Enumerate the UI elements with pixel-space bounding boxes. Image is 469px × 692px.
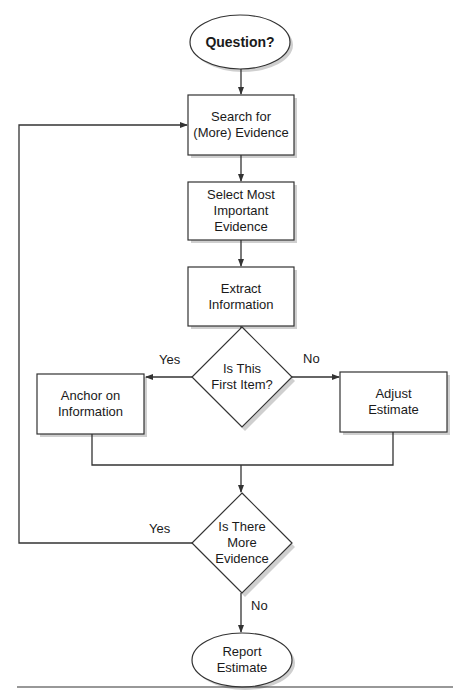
select-line1: Select Most [207, 187, 275, 203]
label-adjust: Adjust Estimate [340, 372, 447, 432]
anchor-line1: Anchor on [61, 388, 120, 404]
select-line3: Evidence [214, 219, 267, 235]
report-line1: Report [222, 644, 261, 660]
edge-label-more-yes: Yes [149, 521, 170, 537]
first-item-line1: Is This [223, 361, 261, 377]
start-text: Question? [205, 34, 274, 50]
more-evidence-line3: Evidence [215, 551, 268, 567]
adjust-line2: Estimate [368, 402, 419, 418]
extract-line2: Information [208, 297, 273, 313]
label-select: Select Most Important Evidence [188, 182, 294, 240]
label-search: Search for (More) Evidence [188, 95, 294, 155]
label-extract: Extract Information [188, 267, 294, 326]
label-more-evidence: Is There More Evidence [192, 518, 292, 568]
anchor-line2: Information [58, 404, 123, 420]
label-report: Report Estimate [192, 643, 292, 677]
label-anchor: Anchor on Information [37, 374, 144, 434]
more-evidence-line2: More [227, 535, 257, 551]
edge-label-first-no: No [303, 351, 320, 367]
adjust-line1: Adjust [375, 386, 411, 402]
label-first-item: Is This First Item? [192, 357, 292, 397]
extract-line1: Extract [221, 281, 261, 297]
search-line2: (More) Evidence [193, 125, 288, 141]
edge-label-more-no: No [251, 598, 268, 614]
search-line1: Search for [211, 109, 271, 125]
edge-label-first-yes: Yes [159, 352, 180, 368]
edge-more-yes-loop [19, 125, 192, 543]
select-line2: Important [214, 203, 269, 219]
first-item-line2: First Item? [211, 377, 272, 393]
report-line2: Estimate [217, 660, 268, 676]
more-evidence-line1: Is There [218, 519, 265, 535]
label-start: Question? [190, 30, 290, 54]
